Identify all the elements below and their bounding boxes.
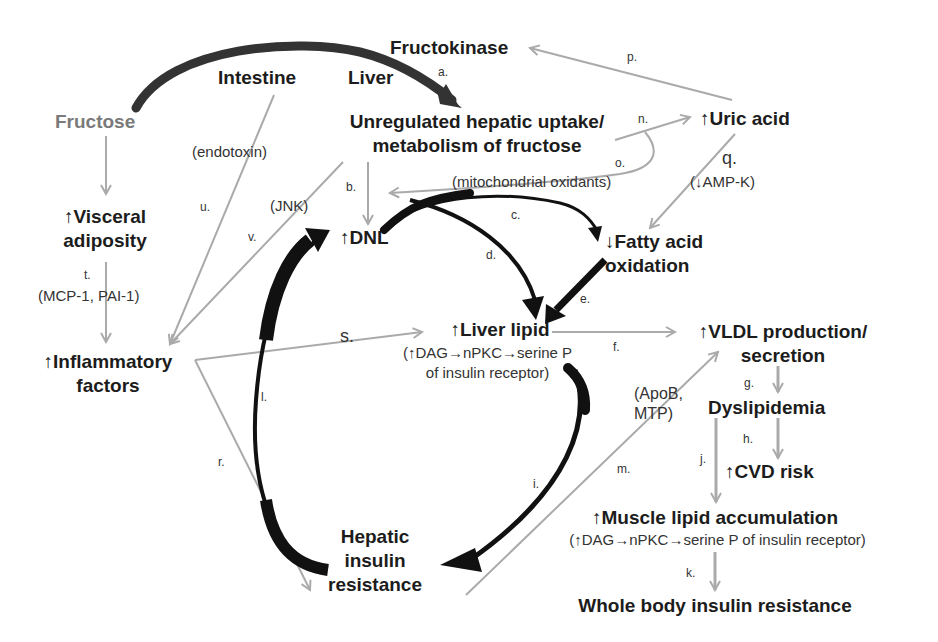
- node-fructokinase: Fructokinase: [390, 36, 508, 60]
- hir-line2: insulin: [320, 549, 430, 573]
- hepatic-uptake-line1: Unregulated hepatic uptake/: [332, 110, 622, 134]
- node-vldl: ↑VLDL production/ secretion: [678, 320, 888, 368]
- annotation-endotoxin: (endotoxin): [192, 142, 267, 162]
- arrow-d: [410, 200, 544, 320]
- edge-label-b: b.: [346, 180, 356, 194]
- vldl-line2: secretion: [678, 344, 888, 368]
- edge-label-s: s.: [340, 326, 354, 346]
- mtp-line: MTP): [634, 404, 683, 424]
- arrow-v: [170, 162, 343, 344]
- node-cvd-risk: ↑CVD risk: [725, 460, 814, 484]
- edge-label-t: t.: [84, 268, 91, 282]
- node-dyslipidemia: Dyslipidemia: [708, 396, 825, 420]
- edge-label-a: a.: [438, 65, 448, 79]
- fao-line2: oxidation: [605, 254, 740, 278]
- node-whole-body-ir: Whole body insulin resistance: [560, 594, 870, 618]
- muscle-lipid-detail: (↑DAG→nPKC→serine P of insulin receptor): [545, 530, 890, 550]
- node-hepatic-uptake: Unregulated hepatic uptake/ metabolism o…: [332, 110, 622, 158]
- liver-lipid-detail: (↑DAG→nPKC→serine P of insulin receptor): [380, 343, 595, 383]
- apob-line: (ApoB,: [634, 384, 683, 404]
- fructose-metabolism-diagram: Fructose Intestine Liver Fructokinase Un…: [0, 0, 938, 642]
- annotation-ampk: (↓AMP-K): [690, 172, 755, 192]
- edge-label-n: n.: [638, 112, 648, 126]
- edge-label-j: j.: [700, 452, 706, 466]
- node-inflammatory-factors: ↑Inflammatory factors: [28, 350, 188, 398]
- node-liver: Liver: [348, 66, 393, 90]
- fao-line1: ↓Fatty acid: [605, 230, 740, 254]
- liver-lipid-detail2: of insulin receptor): [380, 363, 595, 383]
- edge-label-c: c.: [511, 208, 520, 222]
- node-hepatic-insulin-resistance: Hepatic insulin resistance: [320, 525, 430, 597]
- edge-label-f: f.: [613, 340, 620, 354]
- node-fatty-acid-oxidation: ↓Fatty acid oxidation: [605, 230, 740, 278]
- edge-label-m: m.: [617, 462, 630, 476]
- edge-label-l: l.: [261, 390, 267, 404]
- edge-label-q: q.: [722, 148, 737, 168]
- node-muscle-lipid: ↑Muscle lipid accumulation: [555, 506, 875, 530]
- node-uric-acid: ↑Uric acid: [700, 107, 790, 131]
- edge-label-h: h.: [743, 432, 753, 446]
- node-fructose: Fructose: [55, 110, 135, 134]
- arrow-n: [615, 117, 690, 140]
- inflammatory-line2: factors: [28, 374, 188, 398]
- hepatic-uptake-line2: metabolism of fructose: [332, 134, 622, 158]
- hir-line1: Hepatic: [320, 525, 430, 549]
- edge-label-p: p.: [627, 50, 637, 64]
- node-liver-lipid: ↑Liver lipid: [420, 318, 580, 342]
- edge-label-r: r.: [218, 455, 225, 469]
- edge-label-i: i.: [533, 477, 539, 491]
- vldl-line1: ↑VLDL production/: [678, 320, 888, 344]
- edge-label-d: d.: [486, 248, 496, 262]
- visceral-line1: ↑Visceral: [40, 205, 170, 229]
- edge-label-k: k.: [686, 566, 695, 580]
- visceral-line2: adiposity: [40, 229, 170, 253]
- node-visceral-adiposity: ↑Visceral adiposity: [40, 205, 170, 253]
- arrow-u: [170, 95, 274, 344]
- annotation-mitochondrial-oxidants: (mitochondrial oxidants): [452, 172, 611, 192]
- annotation-apob-mtp: (ApoB, MTP): [634, 384, 683, 424]
- node-intestine: Intestine: [218, 66, 296, 90]
- annotation-jnk: (JNK): [270, 196, 308, 216]
- edge-label-g: g.: [744, 376, 754, 390]
- annotation-mcp-pai: (MCP-1, PAI-1): [38, 286, 139, 306]
- hir-line3: resistance: [320, 573, 430, 597]
- arrow-e: [545, 260, 605, 324]
- edge-label-v: v.: [248, 230, 256, 244]
- node-dnl: ↑DNL: [340, 226, 389, 250]
- edge-label-o: o.: [615, 156, 625, 170]
- edge-label-e: e.: [580, 292, 590, 306]
- inflammatory-line1: ↑Inflammatory: [28, 350, 188, 374]
- edge-label-u: u.: [200, 200, 210, 214]
- liver-lipid-detail1: (↑DAG→nPKC→serine P: [380, 343, 595, 363]
